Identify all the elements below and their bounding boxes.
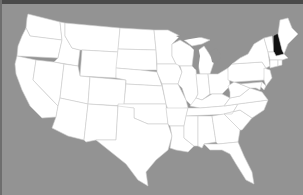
state-montana[interactable]: [65, 23, 120, 52]
state-iowa[interactable]: [157, 64, 182, 84]
map-frame: [0, 0, 303, 195]
state-new-mexico[interactable]: [84, 104, 118, 142]
state-colorado[interactable]: [88, 77, 126, 106]
us-map: [0, 0, 303, 195]
state-pennsylvania[interactable]: [228, 62, 266, 82]
state-kansas[interactable]: [124, 84, 166, 104]
state-ohio[interactable]: [208, 68, 230, 94]
state-connecticut[interactable]: [270, 60, 278, 68]
state-florida[interactable]: [204, 142, 254, 184]
state-wyoming[interactable]: [80, 50, 118, 78]
state-north-dakota[interactable]: [118, 28, 156, 50]
state-south-dakota[interactable]: [116, 49, 157, 70]
state-new-jersey[interactable]: [264, 68, 272, 86]
state-indiana[interactable]: [196, 74, 210, 100]
state-rhode-island[interactable]: [278, 60, 282, 66]
